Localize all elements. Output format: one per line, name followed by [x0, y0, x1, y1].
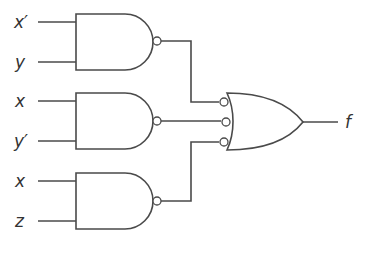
inversion-bubble: [220, 98, 228, 106]
inversion-bubble: [153, 117, 161, 125]
or-gate: [220, 93, 303, 150]
nand-gate-3: [76, 173, 161, 229]
nand-gate-2: [76, 93, 161, 149]
inversion-bubble: [220, 138, 228, 146]
interconnect-wires: [161, 41, 221, 201]
input-label-x: x: [14, 91, 26, 111]
nand-gate-1: [76, 14, 161, 70]
input-label-x-2: x: [14, 171, 26, 191]
output-label-f: f: [345, 112, 354, 132]
input-wires: [38, 22, 76, 221]
inversion-bubble: [153, 37, 161, 45]
input-label-x-prime: x′: [13, 12, 28, 32]
inversion-bubble: [153, 197, 161, 205]
input-label-z: z: [14, 211, 25, 231]
logic-circuit-diagram: x′ y x y′ x z f: [0, 0, 371, 258]
input-label-y-prime: y′: [13, 131, 28, 151]
inversion-bubble: [222, 118, 230, 126]
input-label-y: y: [14, 52, 26, 72]
